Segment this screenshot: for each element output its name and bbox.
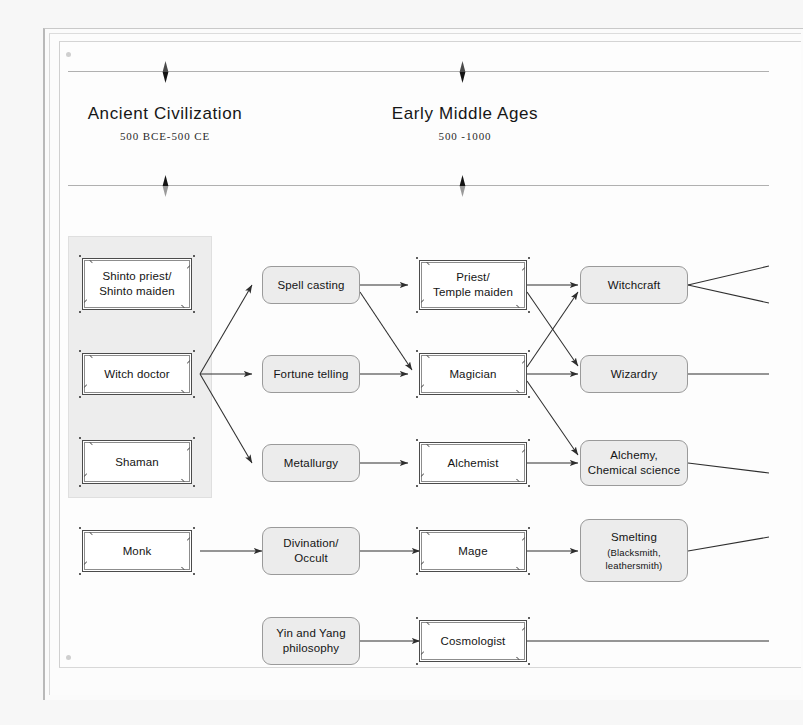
corner-mark	[80, 256, 93, 269]
corner-dot	[193, 255, 195, 257]
node-label: Yin and Yang philosophy	[271, 626, 350, 656]
node-label: Shinto priest/ Shinto maiden	[94, 269, 179, 299]
corner-mark	[516, 351, 529, 364]
corner-mark	[181, 561, 194, 574]
corner-mark	[516, 473, 529, 486]
corner-mark	[417, 440, 430, 453]
node-label: Spell casting	[272, 278, 349, 293]
node-label: Shaman	[110, 455, 164, 470]
corner-dot	[193, 527, 195, 529]
node-label: Witch doctor	[99, 367, 175, 382]
node-label: Metallurgy	[279, 456, 344, 471]
corner-mark	[80, 438, 93, 451]
era-rule-bottom	[68, 185, 769, 186]
corner-dot	[528, 527, 530, 529]
corner-mark	[80, 473, 93, 486]
corner-dot	[416, 527, 418, 529]
era-divider-marker-2-bottom	[457, 174, 468, 198]
corner-dot	[79, 573, 81, 575]
corner-dot	[528, 311, 530, 313]
corner-mark	[516, 258, 529, 271]
corner-mark	[516, 384, 529, 397]
corner-dot	[416, 663, 418, 665]
corner-dot	[528, 257, 530, 259]
corner-mark	[516, 440, 529, 453]
era-range: 500 BCE-500 CE	[25, 130, 305, 142]
corner-mark	[181, 438, 194, 451]
corner-mark	[80, 299, 93, 312]
corner-dot	[528, 350, 530, 352]
node-fortune-telling[interactable]: Fortune telling	[262, 355, 360, 393]
node-divination-occult[interactable]: Divination/ Occult	[262, 527, 360, 575]
corner-dot	[528, 439, 530, 441]
corner-dot	[528, 485, 530, 487]
node-witchcraft[interactable]: Witchcraft	[580, 266, 688, 304]
node-sublabel: (Blacksmith, leathersmith)	[601, 546, 668, 572]
node-smelting[interactable]: Smelting (Blacksmith, leathersmith)	[580, 519, 688, 582]
corner-dot	[79, 350, 81, 352]
node-label: Alchemy, Chemical science	[583, 448, 686, 478]
node-label: Monk	[118, 544, 157, 559]
node-shaman[interactable]: Shaman	[82, 440, 192, 484]
node-shinto-priest-maiden[interactable]: Shinto priest/ Shinto maiden	[82, 258, 192, 310]
corner-dot	[193, 485, 195, 487]
corner-mark	[516, 651, 529, 664]
corner-mark	[516, 528, 529, 541]
corner-mark	[417, 618, 430, 631]
frame-corner-dot-top-left	[66, 52, 71, 57]
corner-mark	[181, 351, 194, 364]
corner-dot	[79, 485, 81, 487]
node-priest-temple-maiden[interactable]: Priest/ Temple maiden	[419, 260, 527, 310]
node-label: Priest/ Temple maiden	[428, 270, 518, 300]
corner-dot	[193, 311, 195, 313]
era-label-ancient-civilization: Ancient Civilization 500 BCE-500 CE	[25, 104, 305, 142]
node-alchemy-chemical-science[interactable]: Alchemy, Chemical science	[580, 440, 688, 486]
node-yin-and-yang-philosophy[interactable]: Yin and Yang philosophy	[262, 617, 360, 665]
corner-mark	[516, 618, 529, 631]
node-label: Smelting	[606, 530, 662, 545]
corner-mark	[417, 351, 430, 364]
era-label-early-middle-ages: Early Middle Ages 500 -1000	[325, 104, 605, 142]
corner-mark	[80, 528, 93, 541]
era-rule-top	[68, 71, 769, 72]
node-witch-doctor[interactable]: Witch doctor	[82, 353, 192, 395]
corner-dot	[193, 350, 195, 352]
corner-mark	[417, 561, 430, 574]
corner-dot	[528, 617, 530, 619]
corner-dot	[416, 311, 418, 313]
node-magician[interactable]: Magician	[419, 353, 527, 395]
corner-mark	[417, 258, 430, 271]
era-divider-marker-1-top	[160, 60, 171, 84]
node-label: Mage	[453, 544, 492, 559]
frame-corner-dot-bottom-left	[66, 655, 71, 660]
node-label: Magician	[444, 367, 501, 382]
node-monk[interactable]: Monk	[82, 530, 192, 572]
era-range: 500 -1000	[325, 130, 605, 142]
node-cosmologist[interactable]: Cosmologist	[419, 620, 527, 662]
corner-mark	[417, 299, 430, 312]
corner-mark	[516, 299, 529, 312]
corner-mark	[417, 384, 430, 397]
corner-dot	[79, 255, 81, 257]
corner-dot	[416, 485, 418, 487]
node-spell-casting[interactable]: Spell casting	[262, 266, 360, 304]
corner-dot	[79, 396, 81, 398]
corner-mark	[181, 473, 194, 486]
corner-mark	[181, 528, 194, 541]
node-wizardry[interactable]: Wizardry	[580, 355, 688, 393]
corner-dot	[416, 573, 418, 575]
corner-mark	[417, 473, 430, 486]
corner-dot	[416, 439, 418, 441]
node-alchemist[interactable]: Alchemist	[419, 442, 527, 484]
node-label: Alchemist	[442, 456, 503, 471]
corner-dot	[193, 396, 195, 398]
corner-mark	[181, 384, 194, 397]
corner-mark	[417, 651, 430, 664]
corner-mark	[80, 351, 93, 364]
node-metallurgy[interactable]: Metallurgy	[262, 444, 360, 482]
node-mage[interactable]: Mage	[419, 530, 527, 572]
corner-dot	[193, 437, 195, 439]
corner-mark	[80, 561, 93, 574]
corner-dot	[79, 437, 81, 439]
